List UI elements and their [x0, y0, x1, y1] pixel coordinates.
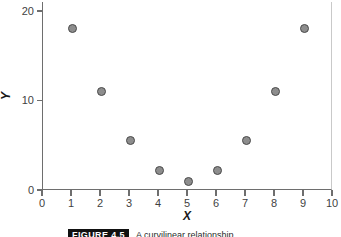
- data-point: [271, 87, 280, 96]
- data-point: [97, 87, 106, 96]
- y-axis-tick-label: 20: [22, 5, 34, 17]
- y-axis-label: Y: [0, 92, 13, 100]
- data-point: [242, 136, 251, 145]
- x-axis-tick: [186, 190, 187, 196]
- x-axis-tick: [128, 190, 129, 196]
- x-axis-tick-label: 3: [126, 197, 132, 209]
- x-axis-tick: [70, 190, 71, 196]
- x-axis-tick: [244, 190, 245, 196]
- x-axis-tick: [331, 190, 332, 196]
- figure-caption-tag: FIGURE 4.5: [68, 229, 129, 237]
- x-axis-tick-label: 7: [242, 197, 248, 209]
- x-axis-tick-label: 1: [68, 197, 74, 209]
- data-point: [126, 136, 135, 145]
- data-point: [68, 24, 77, 33]
- x-axis-label: X: [42, 209, 332, 223]
- x-axis-tick: [99, 190, 100, 196]
- figure-caption: FIGURE 4.5 A curvilinear relationship.: [68, 229, 236, 237]
- x-axis-tick-label: 9: [300, 197, 306, 209]
- figure-caption-text: A curvilinear relationship.: [136, 229, 236, 237]
- data-point: [155, 166, 164, 175]
- x-axis-tick-label: 2: [97, 197, 103, 209]
- x-axis-tick: [273, 190, 274, 196]
- x-axis-tick-label: 5: [184, 197, 190, 209]
- x-axis-tick: [302, 190, 303, 196]
- x-axis-tick-label: 0: [39, 197, 45, 209]
- data-point: [300, 24, 309, 33]
- x-axis-tick-label: 8: [271, 197, 277, 209]
- y-axis-tick: [37, 10, 43, 11]
- x-axis-tick: [157, 190, 158, 196]
- x-axis-tick: [41, 190, 42, 196]
- x-axis-tick-label: 10: [326, 197, 338, 209]
- y-axis-tick: [37, 100, 43, 101]
- y-axis-tick-label: 10: [22, 94, 34, 106]
- x-axis-tick-label: 4: [155, 197, 161, 209]
- y-axis-tick-label: 0: [28, 184, 34, 196]
- data-point: [184, 177, 193, 186]
- x-axis-tick-label: 6: [213, 197, 219, 209]
- x-axis-tick: [215, 190, 216, 196]
- data-point: [213, 166, 222, 175]
- figure-scatter-curvilinear: 01020 012345678910 X Y FIGURE 4.5 A curv…: [0, 0, 341, 237]
- plot-area: 01020: [42, 2, 332, 190]
